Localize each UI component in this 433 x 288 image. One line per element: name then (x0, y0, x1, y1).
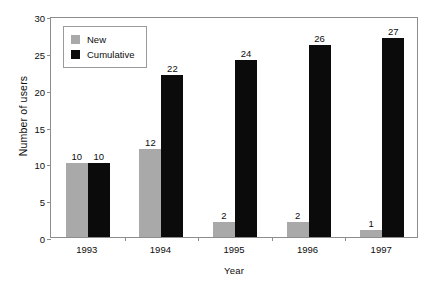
bar-chart-figure: Number of users Year 10101222224226127 N… (0, 0, 433, 288)
x-axis-tick-label-1996: 1996 (297, 244, 318, 255)
legend-item-cumulative: Cumulative (71, 47, 135, 62)
x-axis-tick-label-1993: 1993 (76, 244, 97, 255)
bar-new-1993 (66, 163, 88, 237)
bar-cumulative-1994 (161, 75, 183, 237)
bar-value-label: 26 (314, 33, 325, 44)
plot-area: 10101222224226127 New Cumulative 0510152… (50, 17, 418, 238)
bar-value-label: 1 (369, 218, 374, 229)
x-axis-tick-label-1995: 1995 (223, 244, 244, 255)
x-axis-tick-mark (272, 237, 273, 241)
y-axis-tick-label: 15 (28, 123, 45, 134)
bar-value-label: 2 (295, 210, 300, 221)
legend-item-new: New (71, 32, 135, 47)
bar-value-label: 2 (221, 210, 226, 221)
y-axis-tick-label: 30 (28, 13, 45, 24)
bar-new-1997 (360, 230, 382, 237)
bar-cumulative-1993 (88, 163, 110, 237)
x-axis-tick-label-1997: 1997 (371, 244, 392, 255)
y-axis-tick-label: 0 (28, 234, 45, 245)
bar-cumulative-1996 (309, 45, 331, 237)
y-axis-tick-label: 10 (28, 160, 45, 171)
y-axis-tick-mark (47, 129, 51, 130)
y-axis-tick-mark (47, 165, 51, 166)
x-axis-tick-mark (125, 237, 126, 241)
y-axis-tick-label: 25 (28, 49, 45, 60)
bar-value-label: 24 (241, 48, 252, 59)
x-axis-tick-label-1994: 1994 (150, 244, 171, 255)
y-axis-tick-mark (47, 55, 51, 56)
y-axis-tick-mark (47, 18, 51, 19)
x-axis-tick-mark (345, 237, 346, 241)
bar-cumulative-1995 (235, 60, 257, 237)
bar-value-label: 27 (388, 26, 399, 37)
bar-cumulative-1997 (382, 38, 404, 237)
x-axis-tick-mark (198, 237, 199, 241)
bar-value-label: 22 (167, 63, 178, 74)
legend-label-cumulative: Cumulative (87, 49, 135, 60)
x-axis-title: Year (50, 265, 418, 276)
chart-legend: New Cumulative (63, 26, 147, 68)
bar-new-1994 (139, 149, 161, 237)
legend-swatch-new-icon (71, 35, 80, 44)
y-axis-tick-mark (47, 239, 51, 240)
y-axis-tick-mark (47, 92, 51, 93)
y-axis-tick-mark (47, 202, 51, 203)
legend-label-new: New (87, 34, 106, 45)
legend-swatch-cumulative-icon (71, 50, 80, 59)
bar-value-label: 10 (94, 151, 105, 162)
y-axis-tick-label: 20 (28, 86, 45, 97)
bar-new-1996 (287, 222, 309, 237)
bar-new-1995 (213, 222, 235, 237)
bar-value-label: 12 (145, 137, 156, 148)
bar-value-label: 10 (72, 151, 83, 162)
y-axis-tick-label: 5 (28, 197, 45, 208)
